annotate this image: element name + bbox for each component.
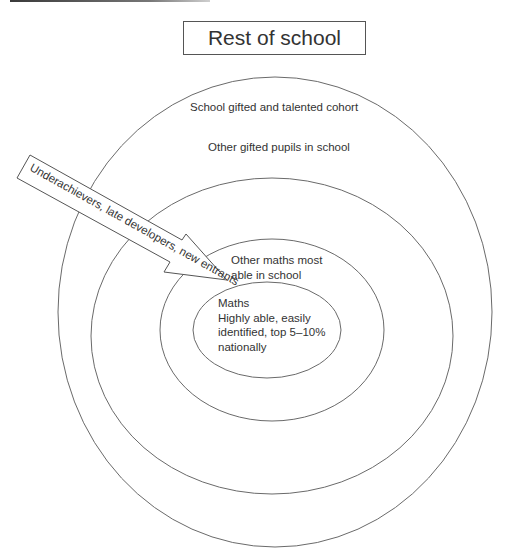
ring-maths-core-line: Highly able, easily <box>218 311 325 326</box>
ring-maths-core-line: Maths <box>218 296 325 311</box>
ring-maths-core-label: Maths Highly able, easily identified, to… <box>218 296 325 354</box>
ring-maths-core-line: nationally <box>218 340 325 355</box>
arrow-label: Underachievers, late developers, new ent… <box>28 161 241 287</box>
ring-gifted-label: Other gifted pupils in school <box>208 140 350 155</box>
ring-maths-able-line: able in school <box>231 268 322 283</box>
ring-maths-able-line: Other maths most <box>231 253 322 268</box>
ring-outer-label: School gifted and talented cohort <box>190 100 358 115</box>
ring-maths-core-line: identified, top 5–10% <box>218 325 325 340</box>
ring-maths-able-label: Other maths most able in school <box>231 253 322 282</box>
